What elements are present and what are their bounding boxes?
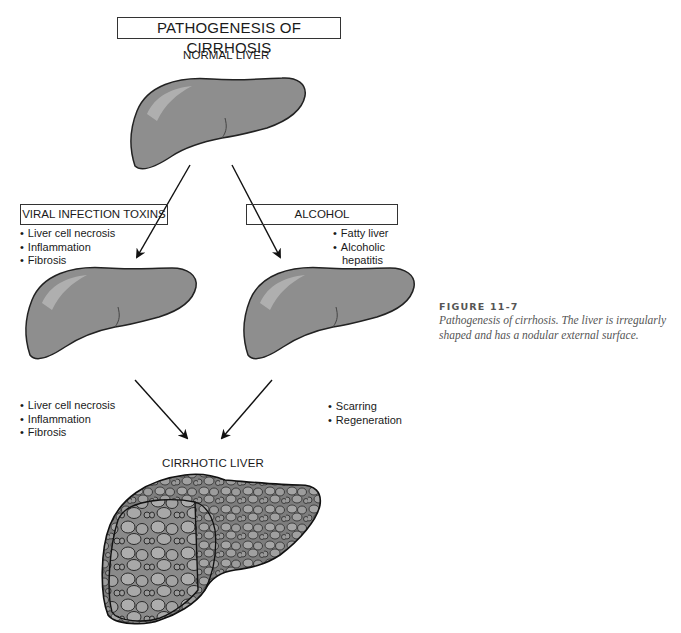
alcohol-second-effects-list: Scarring Regeneration [328, 400, 402, 427]
viral-infection-toxins-box: VIRAL INFECTION TOXINS [20, 204, 168, 225]
list-item: Inflammation [20, 413, 115, 427]
arrow-viral-to-cirrhotic [135, 380, 187, 438]
list-item: Liver cell necrosis [20, 399, 115, 413]
viral-effects-list: Liver cell necrosis Inflammation Fibrosi… [20, 227, 115, 268]
figure-number: FIGURE 11-7 [439, 301, 519, 312]
arrow-alcohol-to-cirrhotic [222, 380, 272, 438]
list-item: Alcoholic [333, 241, 413, 255]
cirrhotic-liver-label: CIRRHOTIC LIVER [162, 457, 264, 469]
figure-caption: Pathogenesis of cirrhosis. The liver is … [439, 313, 679, 343]
left-liver-illustration [26, 267, 196, 358]
list-item: Fibrosis [20, 426, 115, 440]
list-item: Fibrosis [20, 254, 115, 268]
right-liver-illustration [244, 267, 414, 358]
list-item: Inflammation [20, 241, 115, 255]
cirrhotic-liver-illustration [102, 474, 320, 623]
list-item-continuation: hepatitis [342, 254, 383, 266]
list-item: Fatty liver [333, 227, 413, 241]
list-item: Regeneration [328, 414, 402, 428]
list-item: Scarring [328, 400, 402, 414]
normal-liver-illustration [131, 78, 305, 169]
list-item: Liver cell necrosis [20, 227, 115, 241]
alcohol-effects-list: Fatty liver Alcoholic hepatitis [333, 227, 413, 268]
list-item: hepatitis [333, 254, 413, 268]
alcohol-box: ALCOHOL [246, 204, 398, 225]
viral-second-effects-list: Liver cell necrosis Inflammation Fibrosi… [20, 399, 115, 440]
